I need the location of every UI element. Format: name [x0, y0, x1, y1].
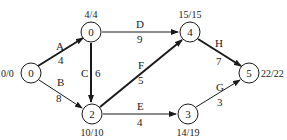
node-4-label: 4 [187, 26, 193, 38]
edge-C-duration: 6 [95, 67, 101, 79]
edge-G-duration: 3 [217, 96, 223, 108]
edge-C-activity: C [81, 67, 88, 79]
node-3-time: 14/19 [177, 127, 200, 138]
node-0: 0 0/0 [1, 63, 41, 83]
edge-B: B 8 [39, 76, 82, 108]
node-2-time: 10/10 [81, 127, 104, 138]
edge-D-activity: D [136, 18, 144, 30]
edge-H-activity: H [215, 37, 223, 49]
node-3-label: 3 [185, 108, 191, 120]
edge-E: E 4 [103, 100, 176, 128]
node-4-time: 15/15 [179, 9, 202, 20]
edge-F: F 5 [100, 40, 182, 107]
node-0-time: 0/0 [1, 68, 14, 79]
edge-B-duration: 8 [56, 92, 62, 104]
edge-B-activity: B [57, 76, 64, 88]
node-5-time: 22/22 [261, 68, 284, 79]
node-3: 3 14/19 [177, 104, 200, 138]
node-5: 5 22/22 [239, 63, 284, 83]
edge-G-activity: G [216, 81, 224, 93]
edge-C: C 6 [81, 43, 101, 102]
node-4: 4 15/15 [179, 9, 202, 42]
edge-D: D 9 [102, 18, 178, 45]
activity-network-diagram: A 4 B 8 C 6 D 9 E 4 F 5 G 3 H 7 0 [0, 0, 287, 140]
edge-E-activity: E [137, 100, 144, 112]
edge-A: A 4 [38, 38, 83, 66]
edge-A-duration: 4 [58, 54, 64, 66]
node-1: 0 4/4 [81, 9, 101, 42]
node-2: 2 10/10 [81, 104, 104, 138]
node-0-label: 0 [28, 67, 34, 79]
node-1-label: 0 [88, 26, 94, 38]
edge-F-activity: F [138, 59, 144, 71]
edge-A-activity: A [56, 40, 64, 52]
edge-E-duration: 4 [137, 116, 143, 128]
edge-H-duration: 7 [216, 55, 222, 67]
edge-D-duration: 9 [137, 33, 143, 45]
edge-H: H 7 [198, 37, 241, 67]
node-2-label: 2 [89, 108, 95, 120]
node-5-label: 5 [246, 67, 252, 79]
edge-F-duration: 5 [138, 74, 144, 86]
node-1-time: 4/4 [85, 9, 98, 20]
edge-G: G 3 [196, 80, 240, 108]
